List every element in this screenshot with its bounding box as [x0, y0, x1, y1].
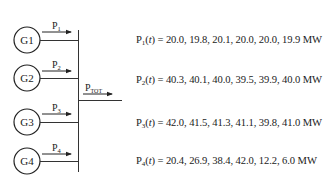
equation-p4: P4(t) = 20.4, 26.9, 38.4, 42.0, 12.2, 6.…	[136, 155, 317, 168]
equation-p3: P3(t) = 42.0, 41.5, 41.3, 41.1, 39.8, 41…	[136, 117, 322, 130]
generator-g4: G4 P4	[14, 142, 79, 174]
generator-g1: G1 P1	[14, 20, 79, 53]
svg-text:G2: G2	[20, 72, 33, 84]
svg-text:P1: P1	[52, 20, 61, 32]
generator-g3: G3 P3	[14, 102, 79, 135]
svg-text:PTOT: PTOT	[85, 82, 102, 94]
svg-text:P3: P3	[52, 102, 61, 114]
svg-text:G3: G3	[20, 116, 34, 128]
equation-p1: P1(t) = 20.0, 19.8, 20.1, 20.0, 20.0, 19…	[136, 34, 322, 47]
svg-text:G4: G4	[20, 155, 34, 167]
svg-text:P2: P2	[52, 59, 61, 71]
generator-g2: G2 P2	[14, 59, 79, 91]
total-output: PTOT	[79, 82, 123, 101]
equation-p2: P2(t) = 40.3, 40.1, 40.0, 39.5, 39.9, 40…	[136, 74, 322, 87]
svg-text:P4: P4	[52, 142, 62, 154]
svg-text:G1: G1	[20, 34, 33, 46]
